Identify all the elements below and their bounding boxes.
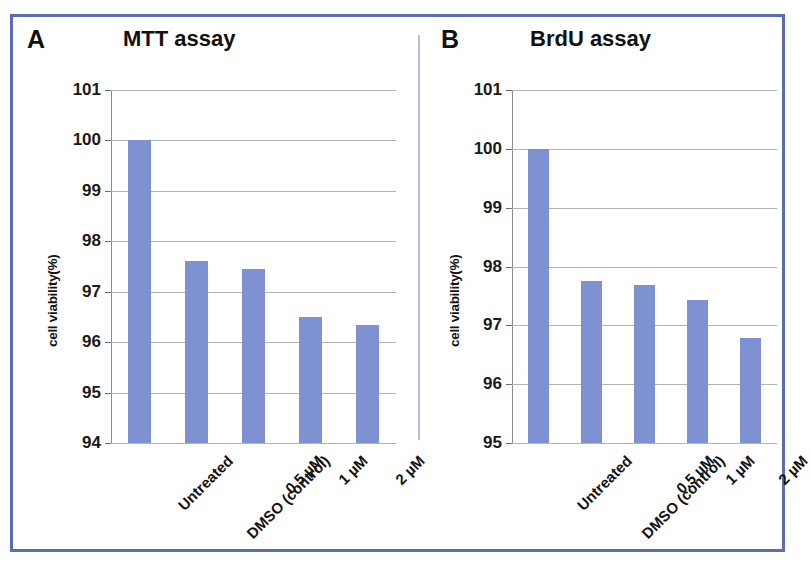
panel-a-title: MTT assay xyxy=(123,26,236,52)
gridline xyxy=(111,90,396,91)
gridline xyxy=(512,208,777,209)
bar xyxy=(185,261,208,443)
category-label: 1 µM xyxy=(334,452,370,488)
y-tick-label: 99 xyxy=(82,181,101,201)
y-tick-mark xyxy=(506,384,512,385)
y-tick-mark xyxy=(506,267,512,268)
bar xyxy=(687,300,708,443)
y-tick-mark xyxy=(105,90,111,91)
gridline xyxy=(111,443,396,444)
y-tick-label: 98 xyxy=(483,257,502,277)
bar xyxy=(581,281,602,443)
category-label: 1 µM xyxy=(721,452,757,488)
gridline xyxy=(512,149,777,150)
gridline xyxy=(512,90,777,91)
panel-a-y-axis-line xyxy=(111,90,112,444)
y-tick-label: 97 xyxy=(82,282,101,302)
bar xyxy=(128,140,151,443)
gridline xyxy=(512,267,777,268)
y-tick-mark xyxy=(506,208,512,209)
category-label: Untreated xyxy=(573,452,635,514)
y-tick-label: 100 xyxy=(73,130,101,150)
y-tick-label: 99 xyxy=(483,198,502,218)
y-tick-mark xyxy=(105,191,111,192)
y-tick-mark xyxy=(506,443,512,444)
category-label: 2 µM xyxy=(774,452,810,488)
bar xyxy=(634,285,655,443)
y-tick-label: 100 xyxy=(474,139,502,159)
gridline xyxy=(111,241,396,242)
y-tick-label: 97 xyxy=(483,315,502,335)
y-tick-label: 101 xyxy=(73,80,101,100)
bar xyxy=(299,317,322,443)
y-tick-label: 96 xyxy=(483,374,502,394)
gridline xyxy=(512,443,777,444)
panel-b-brdu-assay: B BrdU assay cell viability(%) 959697989… xyxy=(425,17,788,549)
y-tick-mark xyxy=(105,393,111,394)
panel-a-y-axis-title: cell viability(%) xyxy=(45,255,60,347)
y-tick-label: 95 xyxy=(82,383,101,403)
y-tick-mark xyxy=(506,149,512,150)
figure-frame: A MTT assay cell viability(%) 9495969798… xyxy=(10,14,785,552)
panel-b-y-axis-title: cell viability(%) xyxy=(447,255,462,347)
y-tick-mark xyxy=(506,90,512,91)
panel-a-letter: A xyxy=(27,25,45,54)
category-label: 2 µM xyxy=(391,452,427,488)
panel-a-plot-area: 949596979899100101 UntreatedDMSO (contro… xyxy=(111,90,396,444)
category-label: Untreated xyxy=(174,452,236,514)
y-tick-label: 101 xyxy=(474,80,502,100)
y-tick-mark xyxy=(105,342,111,343)
y-tick-mark xyxy=(105,241,111,242)
y-tick-mark xyxy=(506,325,512,326)
gridline xyxy=(111,191,396,192)
y-tick-mark xyxy=(105,292,111,293)
gridline xyxy=(111,140,396,141)
bar xyxy=(740,338,761,443)
y-tick-mark xyxy=(105,140,111,141)
panel-b-title: BrdU assay xyxy=(530,26,651,52)
y-tick-label: 98 xyxy=(82,231,101,251)
y-tick-label: 96 xyxy=(82,332,101,352)
y-tick-label: 95 xyxy=(483,433,502,453)
bar xyxy=(356,325,379,444)
panel-b-letter: B xyxy=(441,25,459,54)
bar xyxy=(528,149,549,443)
panel-a-mtt-assay: A MTT assay cell viability(%) 9495969798… xyxy=(13,17,423,549)
y-tick-label: 94 xyxy=(82,433,101,453)
bar xyxy=(242,269,265,443)
y-tick-mark xyxy=(105,443,111,444)
panel-b-plot-area: 9596979899100101 UntreatedDMSO (control)… xyxy=(512,90,777,444)
